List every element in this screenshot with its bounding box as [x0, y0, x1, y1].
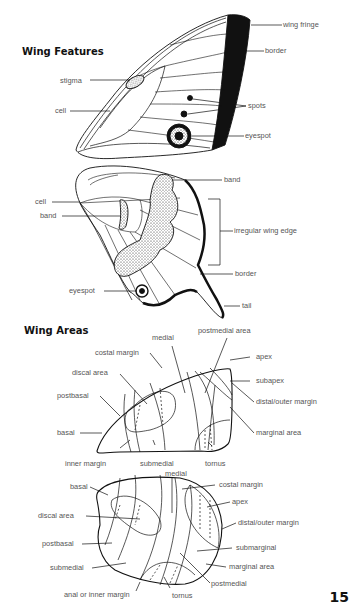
label-spots: spots	[248, 102, 266, 109]
label-hw-tornus: tornus	[172, 592, 193, 599]
label-fw-inner-margin: inner margin	[65, 460, 106, 467]
label-hw-medial: medial	[165, 470, 187, 477]
label-hindwing-eyespot: eyespot	[69, 287, 95, 294]
label-band-left: band	[40, 212, 56, 219]
label-forewing-border: border	[265, 47, 286, 54]
label-fw-postmedial-area: postmedial area	[198, 327, 251, 334]
label-stigma: stigma	[60, 77, 82, 84]
label-hw-basal: basal	[70, 483, 88, 490]
label-hindwing-cell: cell	[35, 198, 46, 205]
forewing-areas	[97, 368, 232, 453]
label-fw-tornus: tornus	[205, 460, 226, 467]
label-fw-discal-area: discal area	[72, 369, 108, 376]
label-wing-fringe: wing fringe	[283, 21, 319, 28]
label-fw-costal-margin: costal margin	[95, 349, 139, 356]
label-fw-postbasal: postbasal	[57, 392, 89, 399]
forewing-leader-lines	[70, 25, 282, 136]
hindwing-areas-leader-lines	[82, 478, 236, 591]
forewing-features	[76, 15, 250, 159]
label-hw-apex: apex	[232, 498, 248, 505]
label-fw-distal-outer-margin: distal/outer margin	[256, 398, 317, 405]
label-forewing-eyespot: eyespot	[245, 132, 271, 139]
heading-wing-areas: Wing Areas	[24, 325, 88, 336]
label-tail: tail	[242, 302, 251, 309]
label-fw-medial: medial	[152, 334, 174, 341]
label-fw-apex: apex	[256, 353, 272, 360]
page-number: 15	[330, 589, 349, 605]
label-fw-basal: basal	[57, 429, 75, 436]
label-hw-discal-area: discal area	[38, 512, 74, 519]
label-fw-marginal-area: marginal area	[256, 429, 301, 436]
label-hw-marginal-area: marginal area	[229, 563, 274, 570]
label-hw-distal-outer-margin: distal/outer margin	[238, 519, 299, 526]
label-forewing-cell: cell	[55, 107, 66, 114]
label-irregular-wing-edge: irregular wing edge	[234, 227, 297, 234]
label-fw-subapex: subapex	[256, 377, 284, 384]
label-hw-submarginal: submarginal	[236, 544, 276, 551]
label-band-top: band	[224, 176, 240, 183]
label-hw-anal-or-inner-margin: anal or inner margin	[64, 591, 130, 598]
hindwing-features	[76, 166, 224, 318]
label-fw-submedial: submedial	[140, 460, 174, 467]
label-hw-postmedial: postmedial	[211, 580, 247, 587]
hindwing-areas	[97, 475, 222, 585]
label-hw-postbasal: postbasal	[42, 540, 74, 547]
label-hw-submedial: submedial	[50, 564, 84, 571]
label-hw-costal-margin: costal margin	[219, 481, 263, 488]
heading-wing-features: Wing Features	[22, 46, 104, 57]
label-hindwing-border: border	[235, 270, 256, 277]
